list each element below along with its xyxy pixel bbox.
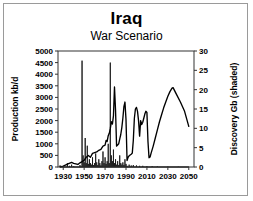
discovery-series	[60, 61, 189, 167]
svg-text:Production kb/d: Production kb/d	[10, 77, 20, 142]
svg-text:25: 25	[199, 66, 208, 75]
svg-text:1930: 1930	[54, 172, 72, 181]
svg-text:3500: 3500	[35, 82, 53, 91]
svg-text:1970: 1970	[96, 172, 114, 181]
svg-text:2000: 2000	[35, 117, 53, 126]
svg-text:30: 30	[199, 47, 208, 56]
svg-text:1000: 1000	[35, 140, 53, 149]
svg-text:15: 15	[199, 105, 208, 114]
svg-text:3000: 3000	[35, 93, 53, 102]
chart-tick-labels: 0500100015002000250030003500400045005000…	[35, 47, 208, 181]
svg-text:2050: 2050	[180, 172, 198, 181]
svg-text:5: 5	[199, 144, 204, 153]
svg-text:500: 500	[40, 151, 54, 160]
svg-text:5000: 5000	[35, 47, 53, 56]
svg-text:1950: 1950	[75, 172, 93, 181]
svg-text:Discovery Gb (shaded): Discovery Gb (shaded)	[229, 63, 239, 156]
svg-text:10: 10	[199, 124, 208, 133]
svg-text:4500: 4500	[35, 59, 53, 68]
svg-text:20: 20	[199, 86, 208, 95]
svg-text:0: 0	[199, 163, 204, 172]
svg-text:0: 0	[49, 163, 54, 172]
svg-text:1500: 1500	[35, 128, 53, 137]
svg-text:2010: 2010	[138, 172, 156, 181]
production-series	[60, 87, 189, 167]
chart-plot-area: 0500100015002000250030003500400045005000…	[4, 4, 249, 197]
svg-text:1990: 1990	[117, 172, 135, 181]
svg-text:4000: 4000	[35, 70, 53, 79]
svg-text:2030: 2030	[159, 172, 177, 181]
svg-text:2500: 2500	[35, 105, 53, 114]
chart-frame: Iraq War Scenario 0500100015002000250030…	[3, 3, 248, 196]
chart-svg: 0500100015002000250030003500400045005000…	[4, 4, 249, 197]
